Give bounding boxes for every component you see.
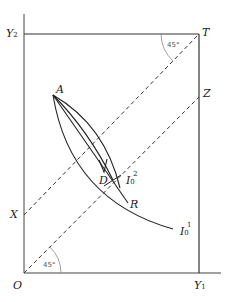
edgeworth-box-diagram <box>0 0 230 302</box>
label-t: T <box>202 27 209 38</box>
line-a-r <box>53 95 128 203</box>
angle-label-top: 45° <box>167 42 179 49</box>
label-z: Z <box>203 88 211 99</box>
label-origin: O <box>13 280 22 291</box>
label-y2: Y2 <box>6 28 18 39</box>
label-i02: I0 2 <box>126 175 135 186</box>
label-y1: Y1 <box>194 280 206 291</box>
label-a: A <box>56 84 64 95</box>
dashed-line-o-z <box>24 97 199 273</box>
angle-arc-bottom <box>50 247 61 273</box>
label-d: D <box>99 175 108 186</box>
angle-label-bottom: 45° <box>43 262 55 269</box>
label-i01: I0 1 <box>180 226 189 237</box>
label-r: R <box>130 199 138 210</box>
label-x: X <box>10 209 18 220</box>
